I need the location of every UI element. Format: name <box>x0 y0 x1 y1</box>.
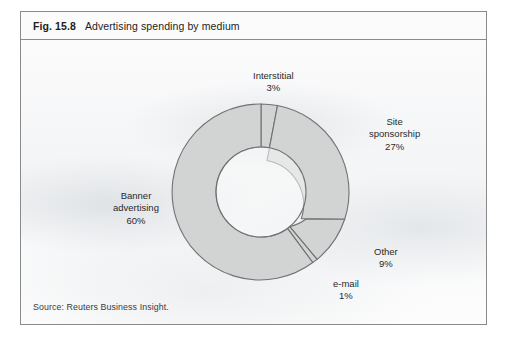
slice-label-site-sponsorship: Site sponsorship 27% <box>369 116 420 153</box>
source-note: Source: Reuters Business Insight. <box>33 302 169 312</box>
slice-label-interstitial: Interstitial 3% <box>253 70 294 95</box>
slice-label-email-value: 1% <box>333 290 359 302</box>
figure-body: Interstitial 3% Site sponsorship 27% Oth… <box>21 40 486 324</box>
slice-label-banner-advertising: Banner advertising 60% <box>113 190 159 227</box>
figure-frame: Fig. 15.8 Advertising spending by medium <box>20 11 487 325</box>
slice-label-email-name: e-mail <box>333 278 359 290</box>
slice-label-interstitial-value: 3% <box>253 82 294 94</box>
donut-hole <box>216 147 306 237</box>
slice-label-site-sponsorship-value: 27% <box>369 141 420 153</box>
slice-label-other-name: Other <box>374 246 398 258</box>
slice-label-other-value: 9% <box>374 258 398 270</box>
donut-chart: Interstitial 3% Site sponsorship 27% Oth… <box>21 40 486 324</box>
figure-header: Fig. 15.8 Advertising spending by medium <box>21 12 486 40</box>
slice-label-banner-advertising-name1: Banner <box>113 190 159 202</box>
slice-label-banner-advertising-value: 60% <box>113 215 159 227</box>
figure-number: Fig. 15.8 <box>33 20 76 32</box>
slice-label-email: e-mail 1% <box>333 278 359 303</box>
figure-title: Advertising spending by medium <box>85 20 240 32</box>
slice-label-site-sponsorship-name2: sponsorship <box>369 128 420 140</box>
slice-label-interstitial-name: Interstitial <box>253 70 294 82</box>
slice-label-banner-advertising-name2: advertising <box>113 202 159 214</box>
slice-label-other: Other 9% <box>374 246 398 271</box>
slice-label-site-sponsorship-name1: Site <box>369 116 420 128</box>
